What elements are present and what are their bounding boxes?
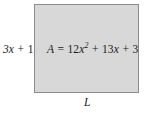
area-term1-exponent: 2 (84, 41, 88, 50)
rectangle-area-label: A = 12x2 + 13x + 3 (47, 44, 138, 56)
rectangle-length-label: L (84, 97, 90, 109)
rectangle-height-label: 3x + 1 (3, 44, 34, 56)
height-operator: + (17, 43, 25, 55)
area-operator-2: + (122, 43, 130, 55)
height-constant: 1 (28, 43, 34, 55)
height-variable: x (9, 43, 14, 55)
area-equals-sign: = (57, 43, 65, 55)
area-term3-constant: 3 (132, 43, 138, 55)
area-symbol: A (47, 43, 54, 55)
area-operator-1: + (91, 43, 99, 55)
area-term1-coefficient: 12 (67, 43, 79, 55)
area-term2-coefficient: 13 (102, 43, 114, 55)
geometry-figure: 3x + 1 A = 12x2 + 13x + 3 L (0, 0, 154, 113)
area-term2-variable: x (114, 43, 119, 55)
